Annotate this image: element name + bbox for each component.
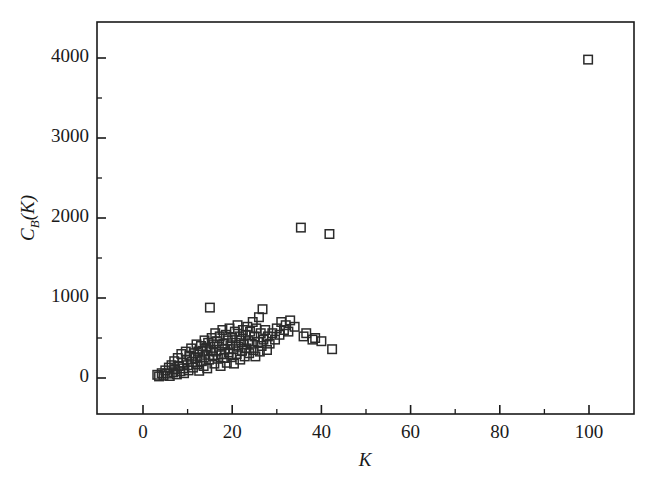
y-title-subscript: B xyxy=(27,220,42,228)
x-tick-label: 80 xyxy=(490,421,509,442)
x-tick-label: 20 xyxy=(223,421,242,442)
y-tick-label: 1000 xyxy=(51,285,89,306)
y-axis-title: CB(K) xyxy=(17,195,42,241)
y-tick-label: 4000 xyxy=(51,45,89,66)
data-point-marker xyxy=(258,305,267,314)
x-axis-title: K xyxy=(358,449,373,470)
data-point-marker xyxy=(206,303,215,312)
y-axis-tick-labels: 01000200030004000 xyxy=(51,45,89,386)
figure-container: 01000200030004000 020406080100 K CB(K) xyxy=(0,0,650,498)
x-tick-label: 100 xyxy=(575,421,604,442)
svg-text:CB(K): CB(K) xyxy=(17,195,42,241)
y-axis-ticks xyxy=(97,58,106,378)
x-axis-tick-labels: 020406080100 xyxy=(138,421,603,442)
y-title-base: C xyxy=(17,228,38,241)
y-tick-label: 0 xyxy=(80,365,90,386)
x-tick-label: 40 xyxy=(312,421,331,442)
data-point-marker xyxy=(584,55,593,64)
data-point-marker xyxy=(328,345,337,354)
y-title-arg: (K) xyxy=(17,195,39,220)
y-tick-label: 3000 xyxy=(51,125,89,146)
data-point-marker xyxy=(317,337,326,346)
data-points xyxy=(153,55,592,380)
y-tick-label: 2000 xyxy=(51,205,89,226)
scatter-plot: 01000200030004000 020406080100 K CB(K) xyxy=(0,0,650,498)
data-point-marker xyxy=(302,329,311,338)
data-point-marker xyxy=(325,230,334,239)
x-tick-label: 60 xyxy=(401,421,420,442)
x-axis-ticks xyxy=(143,405,589,414)
x-tick-label: 0 xyxy=(138,421,148,442)
data-point-marker xyxy=(297,223,306,232)
data-point-marker xyxy=(299,332,308,341)
